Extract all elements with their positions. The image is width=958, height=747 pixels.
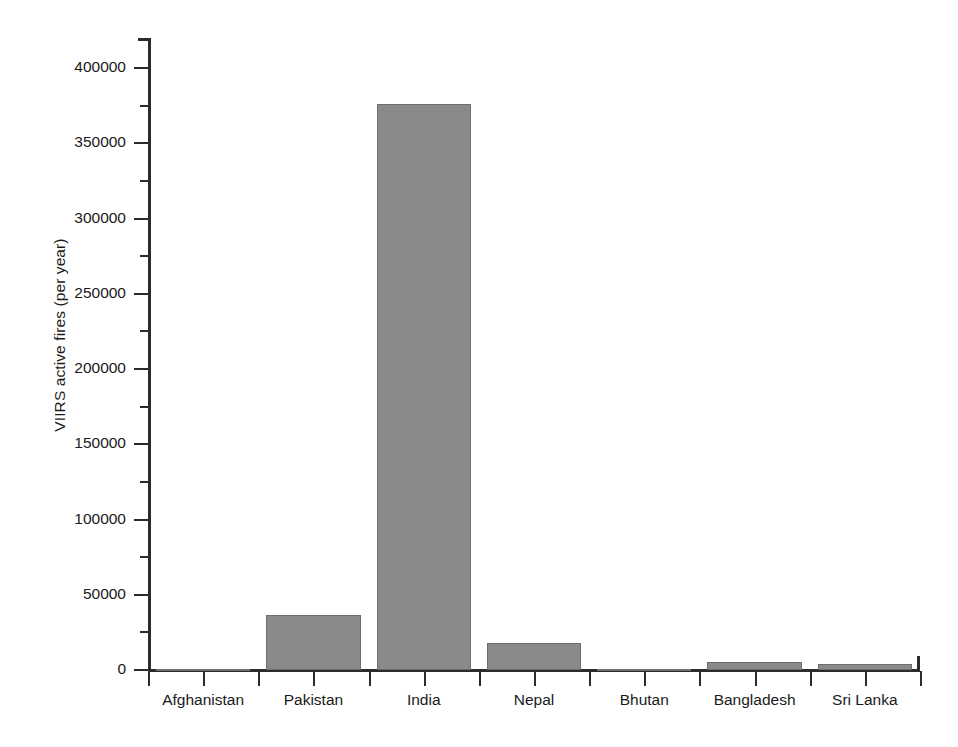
- y-axis-minor-tick: [140, 255, 148, 257]
- x-axis-tick-label: Afghanistan: [148, 692, 258, 708]
- bar: [266, 615, 360, 670]
- x-axis-boundary-tick: [148, 671, 150, 686]
- y-axis-tick: [134, 142, 148, 144]
- x-axis-boundary-tick: [589, 671, 591, 686]
- x-axis-tick-label: Nepal: [479, 692, 589, 708]
- x-axis-center-tick: [534, 671, 536, 686]
- y-axis-tick-label: 200000: [0, 360, 126, 376]
- x-axis-center-tick: [424, 671, 426, 686]
- x-axis-tick-label: Bangladesh: [699, 692, 809, 708]
- y-axis-minor-tick: [140, 631, 148, 633]
- x-axis-center-tick: [644, 671, 646, 686]
- chart-figure: VIIRS active fires (per year) 0500001000…: [0, 0, 958, 747]
- x-axis-center-tick: [865, 671, 867, 686]
- y-axis-tick: [134, 368, 148, 370]
- x-axis-center-tick: [313, 671, 315, 686]
- bar: [707, 662, 801, 670]
- x-axis-tick-label: Pakistan: [258, 692, 368, 708]
- x-axis-boundary-tick: [479, 671, 481, 686]
- y-axis-tick-label: 50000: [0, 586, 126, 602]
- y-axis-tick: [134, 669, 148, 671]
- y-axis-minor-tick: [140, 180, 148, 182]
- bar: [377, 104, 471, 670]
- y-axis-tick: [134, 443, 148, 445]
- y-axis-tick: [134, 218, 148, 220]
- y-axis-tick-label: 400000: [0, 59, 126, 75]
- bar: [818, 664, 912, 670]
- x-axis-boundary-tick: [920, 671, 922, 686]
- y-axis-minor-tick: [140, 105, 148, 107]
- y-axis-tick: [134, 519, 148, 521]
- x-axis-boundary-tick: [810, 671, 812, 686]
- x-axis-boundary-tick: [369, 671, 371, 686]
- y-axis-tick-label: 250000: [0, 285, 126, 301]
- bar: [597, 669, 691, 671]
- x-axis-tick-label: India: [369, 692, 479, 708]
- y-axis-tick-label: 100000: [0, 511, 126, 527]
- y-axis-minor-tick: [140, 556, 148, 558]
- y-axis-tick-label: 350000: [0, 134, 126, 150]
- x-axis-center-tick: [755, 671, 757, 686]
- y-axis-top-cap: [138, 38, 151, 41]
- x-axis-center-tick: [203, 671, 205, 686]
- x-axis-boundary-tick: [258, 671, 260, 686]
- y-axis-tick: [134, 67, 148, 69]
- y-axis-tick-label: 150000: [0, 435, 126, 451]
- x-axis-boundary-tick: [699, 671, 701, 686]
- y-axis-minor-tick: [140, 406, 148, 408]
- x-axis-tick-label: Sri Lanka: [810, 692, 920, 708]
- y-axis-tick-label: 300000: [0, 210, 126, 226]
- x-axis-tick-label: Bhutan: [589, 692, 699, 708]
- y-axis-tick-label: 0: [0, 661, 126, 677]
- bar: [487, 643, 581, 670]
- y-axis-line: [148, 38, 151, 672]
- y-axis-tick: [134, 594, 148, 596]
- y-axis-minor-tick: [140, 481, 148, 483]
- x-axis-end-cap: [917, 656, 920, 672]
- y-axis-tick: [134, 293, 148, 295]
- y-axis-label: VIIRS active fires (per year): [45, 0, 75, 670]
- y-axis-minor-tick: [140, 330, 148, 332]
- bar: [156, 669, 250, 671]
